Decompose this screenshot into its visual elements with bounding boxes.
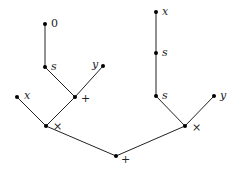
tree-node: + xyxy=(73,92,90,105)
node-dot xyxy=(154,94,158,98)
node-dot xyxy=(154,10,158,14)
node-label: x xyxy=(162,5,169,18)
tree-nodes: 0sy+x×+xssy× xyxy=(15,5,227,166)
tree-node: y xyxy=(91,58,105,71)
node-dot xyxy=(44,124,48,128)
node-dot xyxy=(15,95,19,99)
node-dot xyxy=(212,94,216,98)
node-label: + xyxy=(81,92,90,105)
expression-tree-diagram: 0sy+x×+xssy× xyxy=(0,0,237,170)
tree-node: × xyxy=(44,120,62,133)
tree-edge xyxy=(17,97,46,126)
node-label: x xyxy=(24,89,31,102)
node-label: × xyxy=(53,120,62,133)
node-dot xyxy=(154,51,158,55)
tree-node: × xyxy=(183,121,201,134)
node-label: s xyxy=(162,46,168,59)
node-dot xyxy=(73,95,77,99)
tree-node: y xyxy=(212,89,227,102)
node-dot xyxy=(114,154,118,158)
node-label: × xyxy=(192,121,201,134)
node-label: y xyxy=(91,58,99,71)
tree-node: + xyxy=(114,153,130,166)
tree-node: x xyxy=(15,89,31,102)
node-dot xyxy=(43,22,47,26)
tree-edge xyxy=(116,126,185,156)
tree-edge xyxy=(45,67,75,97)
tree-edge xyxy=(156,96,185,126)
node-dot xyxy=(43,65,47,69)
node-dot xyxy=(183,124,187,128)
node-label: 0 xyxy=(51,17,58,30)
node-label: s xyxy=(162,89,168,102)
node-dot xyxy=(101,64,105,68)
tree-edges xyxy=(17,12,214,156)
node-label: y xyxy=(219,89,227,102)
node-label: + xyxy=(121,153,130,166)
node-label: s xyxy=(51,60,57,73)
